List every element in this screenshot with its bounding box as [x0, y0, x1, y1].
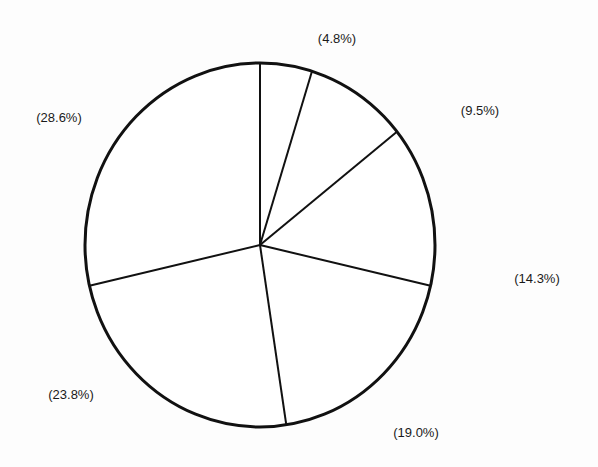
slice-label: (14.3%) — [514, 272, 560, 285]
slice-label: (19.0%) — [393, 426, 439, 439]
slice-label: (28.6%) — [36, 111, 82, 124]
slice-label: (9.5%) — [461, 104, 499, 117]
slice-label: (4.8%) — [318, 32, 356, 45]
slice-label: (23.8%) — [48, 388, 94, 401]
